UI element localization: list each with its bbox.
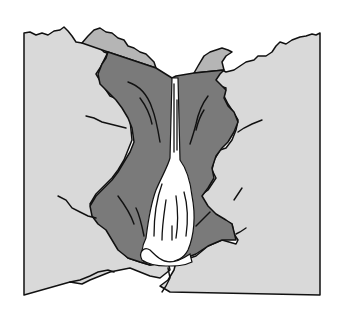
waterfall-drawing xyxy=(0,0,337,312)
far-ridge-right xyxy=(194,48,232,73)
waterfall-illustration xyxy=(0,0,337,312)
